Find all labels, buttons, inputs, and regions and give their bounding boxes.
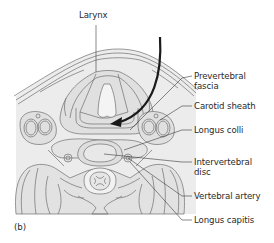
carotid-sheath-label: Carotid sheath [194,101,256,111]
larynx-label: Larynx [79,10,108,20]
vertebral-artery-label: Vertebral artery [194,191,261,201]
panel-label: (b) [14,222,26,232]
longus-colli-label: Longus colli [194,125,243,135]
spinal-cord [90,172,110,190]
neck-cross-section-diagram [0,0,274,243]
intervertebral-disc-label: Intervertebral disc [194,157,252,177]
intervertebral-disc-shape [84,144,117,162]
prevertebral-fascia-label: Prevertebral fascia [194,71,246,91]
longus-capitis-label: Longus capitis [194,215,254,225]
